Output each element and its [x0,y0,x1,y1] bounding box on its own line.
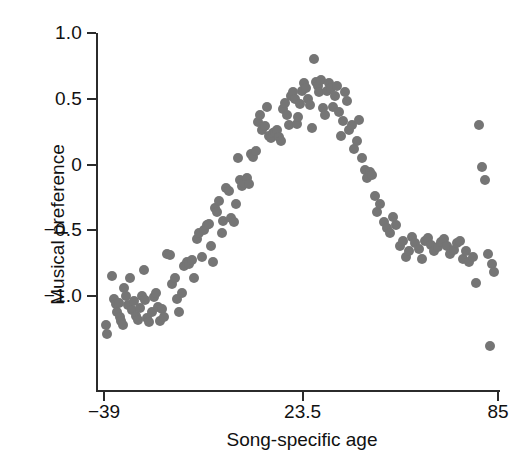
scatter-point [309,54,319,64]
scatter-point [262,102,272,112]
scatter-point [468,252,478,262]
scatter-point [151,288,161,298]
scatter-point [170,273,180,283]
scatter-point [208,257,218,267]
scatter-point [489,267,499,277]
scatter-point [229,217,239,227]
scatter-point [301,83,311,93]
scatter-point [483,249,493,259]
scatter-point [391,220,401,230]
scatter-point [231,199,241,209]
scatter-points-layer [0,0,530,472]
scatter-point [477,162,487,172]
scatter-point [204,219,214,229]
scatter-point [189,273,199,283]
scatter-point [206,241,216,251]
scatter-point [342,96,352,106]
scatter-point [197,252,207,262]
scatter-point [357,153,367,163]
scatter-point [214,196,224,206]
scatter-point [118,320,128,330]
scatter-point [307,123,317,133]
scatter-point [133,315,143,325]
scatter-point [485,341,495,351]
scatter-point [217,228,227,238]
scatter-point [282,110,292,120]
scatter-point [159,312,169,322]
scatter-point [417,254,427,264]
scatter-point [471,278,481,288]
scatter-point [354,115,364,125]
scatter-point [107,271,117,281]
scatter-point [398,236,408,246]
scatter-point [330,91,340,101]
scatter-point [224,186,234,196]
scatter-point [474,120,484,130]
scatter-point [455,236,465,246]
scatter-point [367,170,377,180]
scatter-point [375,199,385,209]
scatter-point [320,110,330,120]
scatter-point [187,255,197,265]
scatter-point [480,175,490,185]
scatter-point [165,250,175,260]
scatter-point [244,179,254,189]
scatter-point [177,288,187,298]
scatter-point [352,136,362,146]
scatter-point [139,265,149,275]
scatter-plot-figure: 1.00.50−0.5−1.0 −3923.585 Musical prefer… [0,0,530,472]
scatter-point [293,112,303,122]
scatter-point [276,136,286,146]
scatter-point [404,246,414,256]
scatter-point [125,273,135,283]
scatter-point [251,146,261,156]
scatter-point [233,153,243,163]
scatter-point [102,329,112,339]
scatter-point [174,307,184,317]
scatter-point [144,317,154,327]
scatter-point [305,100,315,110]
